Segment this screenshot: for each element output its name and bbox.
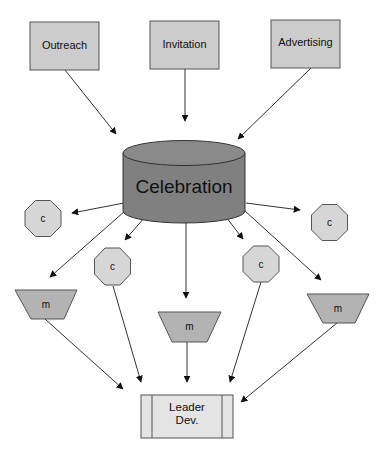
outreach-label: Outreach [42, 39, 87, 51]
leader-dev-box: Leader Dev. [141, 395, 233, 438]
octagon-c3: c [312, 205, 348, 241]
leader-dev-label-line1: Leader [169, 401, 205, 413]
source-advertising: Advertising [271, 20, 340, 68]
m1-label: m [42, 299, 50, 310]
edge-m1-leader [45, 319, 123, 389]
edge-celebration-c1 [72, 203, 124, 213]
flow-diagram: Outreach Invitation Advertising Celebrat… [0, 0, 386, 454]
c1-label: c [41, 213, 46, 224]
celebration-label: Celebration [135, 176, 232, 197]
m3-label: m [334, 303, 342, 314]
edge-advertising-celebration [238, 68, 311, 139]
octagon-c1: c [25, 201, 61, 237]
octagon-c2: c [95, 248, 131, 285]
c4-label: c [259, 259, 264, 270]
trapezoid-m3: m [307, 294, 369, 323]
leader-dev-label-line2: Dev. [176, 414, 199, 426]
edge-c2-leader [113, 286, 141, 382]
source-outreach: Outreach [30, 22, 99, 70]
source-invitation: Invitation [150, 21, 219, 69]
advertising-label: Advertising [278, 36, 332, 48]
celebration-cylinder: Celebration [123, 141, 245, 223]
trapezoid-m2: m [158, 312, 221, 342]
edge-celebration-c3 [246, 203, 300, 210]
c2-label: c [110, 261, 115, 272]
invitation-label: Invitation [162, 38, 206, 50]
edge-celebration-c2 [125, 217, 145, 240]
edge-celebration-c4 [226, 217, 243, 239]
edges [45, 68, 337, 402]
c3-label: c [327, 217, 332, 228]
octagon-c4: c [243, 246, 279, 282]
edge-c4-leader [230, 282, 261, 382]
trapezoid-m1: m [15, 290, 77, 319]
edge-m3-leader [241, 323, 337, 402]
m2-label: m [185, 321, 193, 332]
edge-outreach-celebration [65, 70, 116, 134]
